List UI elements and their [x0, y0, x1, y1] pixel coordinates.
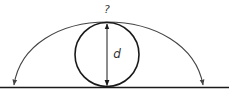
trajectory-arc: [14, 22, 203, 85]
rolling-circle-diagram: ? d: [0, 0, 229, 90]
question-label: ?: [104, 3, 110, 16]
diameter-label: d: [113, 47, 121, 61]
